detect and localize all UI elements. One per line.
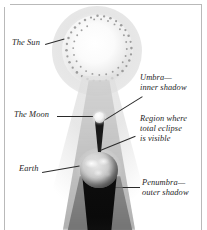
label-the-sun-text: The Sun: [12, 38, 40, 47]
eclipse-diagram-figure: The Sun Umbra— inner shadow The Moon Reg…: [0, 0, 207, 230]
label-penumbra: Penumbra— outer shadow: [142, 178, 189, 198]
label-penumbra-line2: outer shadow: [142, 188, 189, 198]
moon-sphere: [94, 112, 105, 123]
label-the-moon-text: The Moon: [14, 110, 49, 119]
label-region-line2: total eclipse: [140, 124, 187, 134]
label-umbra: Umbra— inner shadow: [140, 73, 187, 93]
label-region-total-eclipse: Region where total eclipse is visible: [140, 114, 187, 145]
label-region-line3: is visible: [140, 134, 187, 144]
label-the-sun: The Sun: [12, 38, 40, 48]
label-earth: Earth: [19, 164, 39, 174]
label-region-line1: Region where: [140, 114, 187, 124]
label-umbra-line2: inner shadow: [140, 83, 187, 93]
label-umbra-line1: Umbra—: [140, 73, 187, 83]
leader-line-moon: [57, 116, 93, 117]
label-earth-text: Earth: [19, 164, 39, 173]
figure-border-top-gap: [4, 3, 10, 6]
label-the-moon: The Moon: [14, 110, 49, 120]
earth-shading-rim: [80, 152, 118, 188]
label-penumbra-line1: Penumbra—: [142, 178, 189, 188]
